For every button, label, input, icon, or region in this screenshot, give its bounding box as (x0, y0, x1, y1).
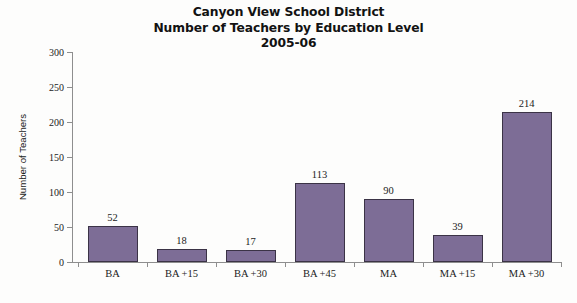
chart-title-line-1: Canyon View School District (0, 5, 577, 21)
bar-value-label: 52 (107, 212, 118, 223)
y-axis-tick (67, 122, 72, 123)
y-axis-tick (67, 87, 72, 88)
y-axis-tick (67, 262, 72, 263)
y-axis-title: Number of Teachers (17, 114, 28, 200)
bar: 214 (502, 112, 552, 262)
x-axis-tick (492, 262, 493, 267)
chart-title: Canyon View School District Number of Te… (0, 5, 577, 52)
x-axis-category-label: MA +15 (440, 268, 475, 279)
bar-value-label: 18 (176, 235, 187, 246)
chart-title-line-3: 2005-06 (0, 36, 577, 52)
x-axis-category-label: BA +30 (234, 268, 267, 279)
y-axis-tick (67, 227, 72, 228)
y-axis-tick (67, 157, 72, 158)
x-axis-category-label: MA (380, 268, 397, 279)
bar: 90 (364, 199, 414, 262)
x-axis-tick (147, 262, 148, 267)
y-axis-tick-label: 150 (49, 152, 64, 163)
y-axis-tick-label: 50 (54, 222, 64, 233)
y-axis-tick-label: 100 (49, 187, 64, 198)
bar: 39 (433, 235, 483, 262)
x-axis-line (72, 262, 561, 263)
bar: 113 (295, 183, 345, 262)
plot-area: 050100150200250300 5218171139039214 BABA… (72, 52, 561, 262)
x-axis-tick (561, 262, 562, 267)
bar-value-label: 214 (519, 98, 535, 109)
y-axis-tick (67, 192, 72, 193)
y-axis-tick-label: 0 (59, 257, 64, 268)
x-axis-category-label: BA +45 (303, 268, 336, 279)
x-axis-category-label: BA (105, 268, 120, 279)
bar: 18 (157, 249, 207, 262)
bar: 17 (226, 250, 276, 262)
chart-figure: Canyon View School District Number of Te… (0, 0, 577, 303)
x-axis-tick (78, 262, 79, 267)
y-axis-line (72, 52, 73, 263)
x-axis-category-label: BA +15 (165, 268, 198, 279)
y-axis-title-container: Number of Teachers (0, 52, 46, 262)
bar-value-label: 113 (312, 169, 327, 180)
chart-title-line-2: Number of Teachers by Education Level (0, 21, 577, 37)
y-axis-tick-label: 300 (49, 47, 64, 58)
x-axis-tick (285, 262, 286, 267)
x-axis-tick (423, 262, 424, 267)
y-axis-tick (67, 52, 72, 53)
bar-value-label: 90 (383, 185, 394, 196)
y-axis-tick-label: 200 (49, 117, 64, 128)
y-axis-tick-label: 250 (49, 82, 64, 93)
x-axis-tick (216, 262, 217, 267)
bar: 52 (88, 226, 138, 262)
x-axis-category-label: MA +30 (509, 268, 544, 279)
x-axis-tick (354, 262, 355, 267)
bar-value-label: 17 (245, 236, 256, 247)
bar-value-label: 39 (452, 221, 463, 232)
